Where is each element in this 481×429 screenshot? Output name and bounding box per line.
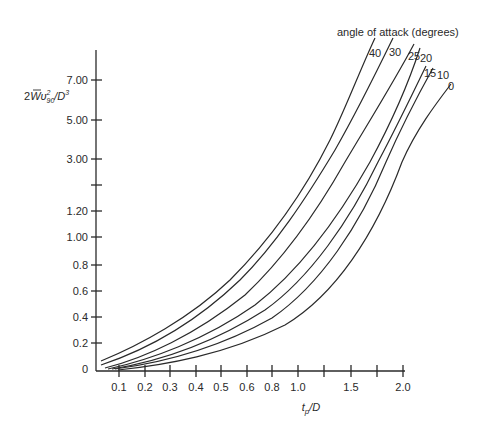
x-tick-label: 1.5 [343, 381, 358, 393]
y-tick-label: 0.6 [73, 285, 88, 297]
x-tick-label: 0.2 [137, 381, 152, 393]
x-axis-title: tp/D [302, 401, 321, 416]
y-tick-label: 0.8 [73, 259, 88, 271]
y-tick-label: 3.00 [67, 153, 88, 165]
y-tick-label: 0.2 [73, 337, 88, 349]
x-tick-label: 1.0 [290, 381, 305, 393]
curve-15 [112, 66, 426, 369]
y-tick-label: 7.00 [67, 74, 88, 86]
x-tick-label: 0.8 [264, 381, 279, 393]
chart: 7.00 5.00 3.00 1.20 1.00 0.8 0.6 0.4 0.2… [0, 0, 481, 429]
curve-10 [115, 68, 433, 369]
x-tick-label: 0.5 [213, 381, 228, 393]
y-tick-label: 1.20 [67, 205, 88, 217]
y-tick-label: 0.4 [73, 311, 88, 323]
legend-title: angle of attack (degrees) [337, 26, 459, 38]
y-tick-labels: 7.00 5.00 3.00 1.20 1.00 0.8 0.6 0.4 0.2… [67, 74, 88, 375]
x-tick-label: 0.1 [111, 381, 126, 393]
x-tick-label: 0.6 [239, 381, 254, 393]
curve-label-30: 30 [389, 46, 401, 58]
curve-30 [101, 38, 393, 365]
y-tick-label: 5.00 [67, 114, 88, 126]
curve-label-25: 25 [408, 50, 420, 62]
y-axis-title: 2Wυ290/D3 [24, 89, 69, 104]
curve-20 [108, 48, 420, 369]
curve-25 [105, 44, 414, 368]
curves [101, 38, 451, 370]
curve-label-0: 0 [448, 80, 454, 92]
x-tick-label: 0.3 [162, 381, 177, 393]
curve-label-15: 15 [424, 67, 436, 79]
y-tick-label: 1.00 [67, 231, 88, 243]
x-tick-label: 0.4 [188, 381, 203, 393]
y-tick-label: 0 [82, 363, 88, 375]
x-tick-label: 2.0 [395, 381, 410, 393]
curve-label-20: 20 [420, 52, 432, 64]
curve-labels: 40 30 25 20 15 10 0 [369, 46, 454, 92]
curve-40 [101, 38, 375, 361]
x-tick-labels: 0.1 0.2 0.3 0.4 0.5 0.6 0.8 1.0 1.5 2.0 [111, 381, 410, 393]
curve-label-40: 40 [369, 47, 381, 59]
